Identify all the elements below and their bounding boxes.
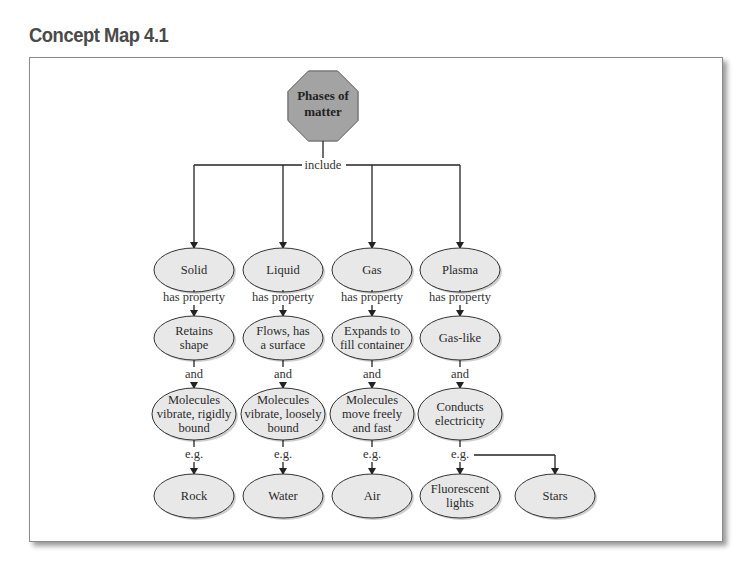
- link-has-property-solid: has property: [163, 290, 226, 304]
- node-phase-gas: Gas: [332, 248, 414, 294]
- node-phase-gas-label: Gas: [362, 263, 382, 277]
- node-property-gas: Expands tofill container: [332, 316, 414, 362]
- link-eg-liquid: e.g.: [274, 447, 292, 461]
- node-example-air-label: Air: [364, 489, 382, 503]
- node-behavior-solid: Moleculesvibrate, rigidlybound: [152, 388, 238, 442]
- node-example-rock: Rock: [154, 474, 236, 520]
- node-phase-plasma-label: Plasma: [442, 263, 479, 277]
- link-eg-plasma: e.g.: [451, 447, 469, 461]
- link-and-liquid: and: [274, 367, 293, 381]
- node-phase-liquid-label: Liquid: [266, 263, 300, 277]
- node-example-rock-label: Rock: [181, 489, 208, 503]
- node-property-liquid: Flows, hasa surface: [243, 316, 325, 362]
- node-phase-liquid: Liquid: [243, 248, 325, 294]
- node-property-plasma: Gas-like: [420, 316, 502, 362]
- node-phase-plasma: Plasma: [420, 248, 502, 294]
- node-property-plasma-label: Gas-like: [439, 331, 482, 345]
- node-behavior-liquid: Moleculesvibrate, looselybound: [241, 388, 327, 442]
- node-behavior-plasma: Conductselectricity: [418, 388, 504, 442]
- node-property-gas-label: Expands tofill container: [340, 324, 405, 352]
- node-example-air: Air: [332, 474, 414, 520]
- link-has-property-liquid: has property: [252, 290, 315, 304]
- root-node-label: Phases ofmatter: [297, 88, 349, 119]
- link-include: include: [305, 158, 342, 172]
- node-example-water-label: Water: [268, 489, 298, 503]
- node-behavior-plasma-label: Conductselectricity: [435, 400, 486, 428]
- link-eg-gas: e.g.: [363, 447, 381, 461]
- link-and-plasma: and: [451, 367, 470, 381]
- node-example-water: Water: [243, 474, 325, 520]
- node-property-solid: Retainsshape: [154, 316, 236, 362]
- node-property-solid-label: Retainsshape: [175, 324, 213, 352]
- link-and-solid: and: [185, 367, 204, 381]
- link-eg-solid: e.g.: [185, 447, 203, 461]
- link-has-property-plasma: has property: [429, 290, 492, 304]
- node-behavior-gas: Moleculesmove freelyand fast: [330, 388, 416, 442]
- concept-map: Phases ofmatterincludeSolidhas propertyR…: [0, 0, 752, 562]
- node-property-liquid-label: Flows, hasa surface: [256, 324, 310, 352]
- node-example-stars-label: Stars: [543, 489, 568, 503]
- node-example-stars: Stars: [515, 474, 597, 520]
- node-example-fluorescent-lights: Fluorescentlights: [420, 474, 502, 520]
- link-and-gas: and: [363, 367, 382, 381]
- node-phase-solid-label: Solid: [181, 263, 208, 277]
- node-phase-solid: Solid: [154, 248, 236, 294]
- root-node-phases-of-matter: Phases ofmatter: [288, 71, 358, 141]
- link-has-property-gas: has property: [341, 290, 404, 304]
